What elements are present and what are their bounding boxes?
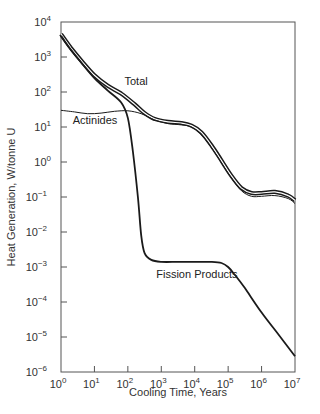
annotation-actinides: Actinides xyxy=(73,114,118,126)
annotation-total: Total xyxy=(125,75,148,87)
y-tick-label: 101 xyxy=(34,119,51,133)
x-tick-label: 100 xyxy=(50,376,67,390)
y-tick-label: 104 xyxy=(34,14,51,28)
y-tick-label: 103 xyxy=(34,49,51,63)
y-tick-label: 102 xyxy=(34,84,51,98)
y-axis-title: Heat Generation, W/tonne U xyxy=(5,128,17,267)
x-axis-title: Cooling Time, Years xyxy=(129,386,227,398)
x-tick-label: 106 xyxy=(250,376,267,390)
annotation-fission-products: Fission Products xyxy=(156,268,238,280)
y-tick-label: 10−3 xyxy=(26,259,48,273)
y-tick-label: 10−2 xyxy=(26,224,48,238)
y-tick-label: 10−6 xyxy=(26,364,48,378)
y-tick-label: 100 xyxy=(34,154,51,168)
x-tick-label: 107 xyxy=(284,376,301,390)
y-tick-label: 10−4 xyxy=(26,294,48,308)
heat-generation-chart: 100101102103104105106107 104103102101100… xyxy=(0,0,320,414)
y-tick-label: 10−5 xyxy=(26,329,48,343)
series-layer xyxy=(61,34,295,356)
x-tick-label: 101 xyxy=(83,376,100,390)
annotation-layer: TotalActinidesFission Products xyxy=(73,75,238,280)
y-tick-label: 10−1 xyxy=(26,189,48,203)
